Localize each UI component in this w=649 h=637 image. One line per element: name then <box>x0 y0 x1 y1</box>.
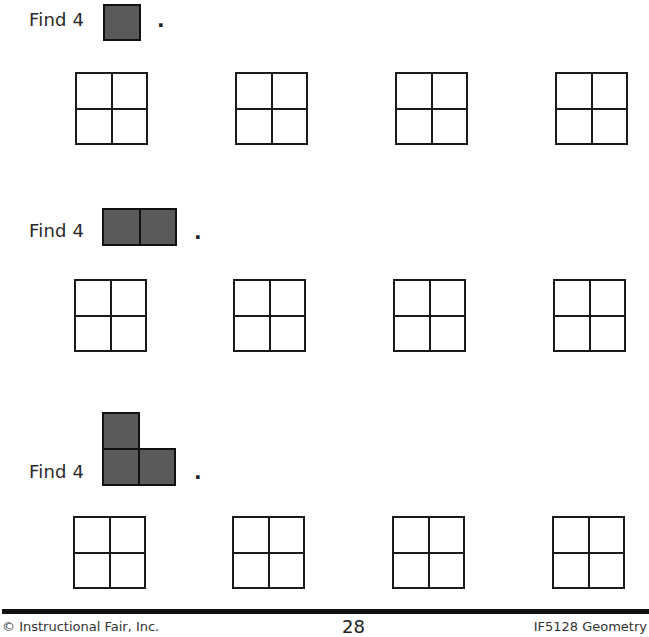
footer-rule-left-ext <box>2 609 318 614</box>
answer-grid-3-2[interactable] <box>232 516 305 589</box>
prompt-section-2: Find 4 <box>29 220 84 241</box>
footer-rule-right-ext <box>390 609 649 614</box>
period-section-3: . <box>194 460 202 484</box>
period-section-2: . <box>194 220 202 244</box>
answer-grid-3-4[interactable] <box>552 516 625 589</box>
shape-square-cell <box>103 4 141 41</box>
product-code: IF5128 Geometry <box>534 619 647 634</box>
answer-grid-2-4[interactable] <box>553 279 626 352</box>
page-number: 28 <box>342 616 365 637</box>
copyright-text: © Instructional Fair, Inc. <box>2 619 159 634</box>
shape-domino-cell-right <box>139 208 177 246</box>
answer-grid-2-3[interactable] <box>393 279 466 352</box>
shape-domino-cell-left <box>102 208 141 246</box>
answer-grid-3-3[interactable] <box>392 516 465 589</box>
shape-l-cell-top <box>102 412 140 450</box>
answer-grid-1-4[interactable] <box>555 72 628 145</box>
answer-grid-2-1[interactable] <box>74 279 147 352</box>
prompt-section-3: Find 4 <box>29 461 84 482</box>
answer-grid-1-3[interactable] <box>395 72 468 145</box>
answer-grid-3-1[interactable] <box>73 516 146 589</box>
answer-grid-1-2[interactable] <box>235 72 308 145</box>
period-section-1: . <box>157 8 165 32</box>
prompt-section-1: Find 4 <box>29 9 84 30</box>
shape-l-cell-bottom-right <box>138 448 176 486</box>
shape-l-cell-bottom-left <box>102 448 140 486</box>
answer-grid-2-2[interactable] <box>233 279 306 352</box>
answer-grid-1-1[interactable] <box>75 72 148 145</box>
